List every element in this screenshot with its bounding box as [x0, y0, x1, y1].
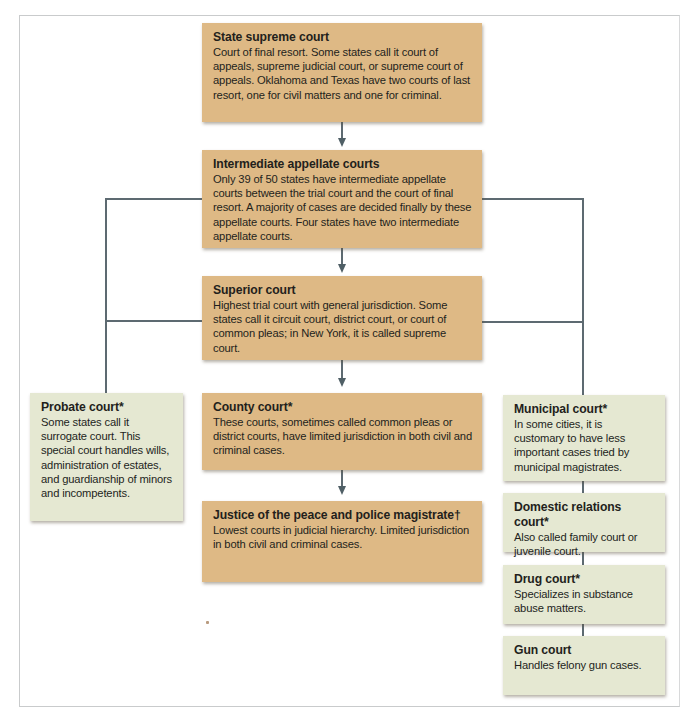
connector-right-top — [481, 198, 584, 200]
box-description: Highest trial court with general jurisdi… — [213, 298, 472, 355]
box-title: Drug court* — [514, 572, 655, 587]
arrow-down-icon — [338, 264, 346, 273]
connector-right-vertical — [582, 198, 584, 395]
box-title: Domestic relations court* — [514, 500, 655, 530]
box-state-supreme-court: State supreme court Court of final resor… — [202, 23, 482, 122]
box-description: In some cities, it is customary to have … — [514, 417, 655, 474]
box-title: Justice of the peace and police magistra… — [213, 508, 472, 523]
box-description: Specializes in substance abuse matters. — [514, 587, 655, 615]
box-description: Handles felony gun cases. — [514, 658, 655, 672]
connector-municipal-to-domestic — [582, 481, 584, 493]
box-description: Court of final resort. Some states call … — [213, 45, 472, 102]
box-gun-court: Gun court Handles felony gun cases. — [503, 636, 665, 695]
box-probate-court: Probate court* Some states call it surro… — [30, 393, 183, 521]
box-title: Gun court — [514, 643, 655, 658]
connector-left-top — [105, 198, 203, 200]
box-description: These courts, sometimes called common pl… — [213, 415, 472, 458]
box-description: Some states call it surrogate court. Thi… — [41, 415, 173, 500]
connector-drug-to-gun — [582, 624, 584, 636]
connector-left-vertical — [105, 198, 107, 394]
connector-right-to-superior — [481, 321, 584, 323]
box-justice-of-the-peace: Justice of the peace and police magistra… — [202, 501, 482, 582]
arrow-down-icon — [338, 486, 346, 495]
box-description: Lowest courts in judicial hierarchy. Lim… — [213, 523, 472, 551]
box-drug-court: Drug court* Specializes in substance abu… — [503, 565, 665, 624]
arrow-down-icon — [338, 138, 346, 147]
box-title: County court* — [213, 400, 472, 415]
box-domestic-relations-court: Domestic relations court* Also called fa… — [503, 493, 665, 552]
print-speck — [206, 621, 209, 624]
box-intermediate-appellate-courts: Intermediate appellate courts Only 39 of… — [202, 150, 482, 248]
box-title: Intermediate appellate courts — [213, 157, 472, 172]
box-description: Also called family court or juvenile cou… — [514, 530, 655, 558]
box-title: Municipal court* — [514, 402, 655, 417]
box-description: Only 39 of 50 states have intermediate a… — [213, 172, 472, 243]
connector-superior-to-county — [341, 360, 343, 380]
arrow-down-icon — [338, 378, 346, 387]
box-title: State supreme court — [213, 30, 472, 45]
box-municipal-court: Municipal court* In some cities, it is c… — [503, 395, 665, 481]
box-county-court: County court* These courts, sometimes ca… — [202, 393, 482, 470]
box-title: Probate court* — [41, 400, 173, 415]
box-superior-court: Superior court Highest trial court with … — [202, 276, 482, 360]
box-title: Superior court — [213, 283, 472, 298]
connector-left-to-superior — [105, 320, 203, 322]
